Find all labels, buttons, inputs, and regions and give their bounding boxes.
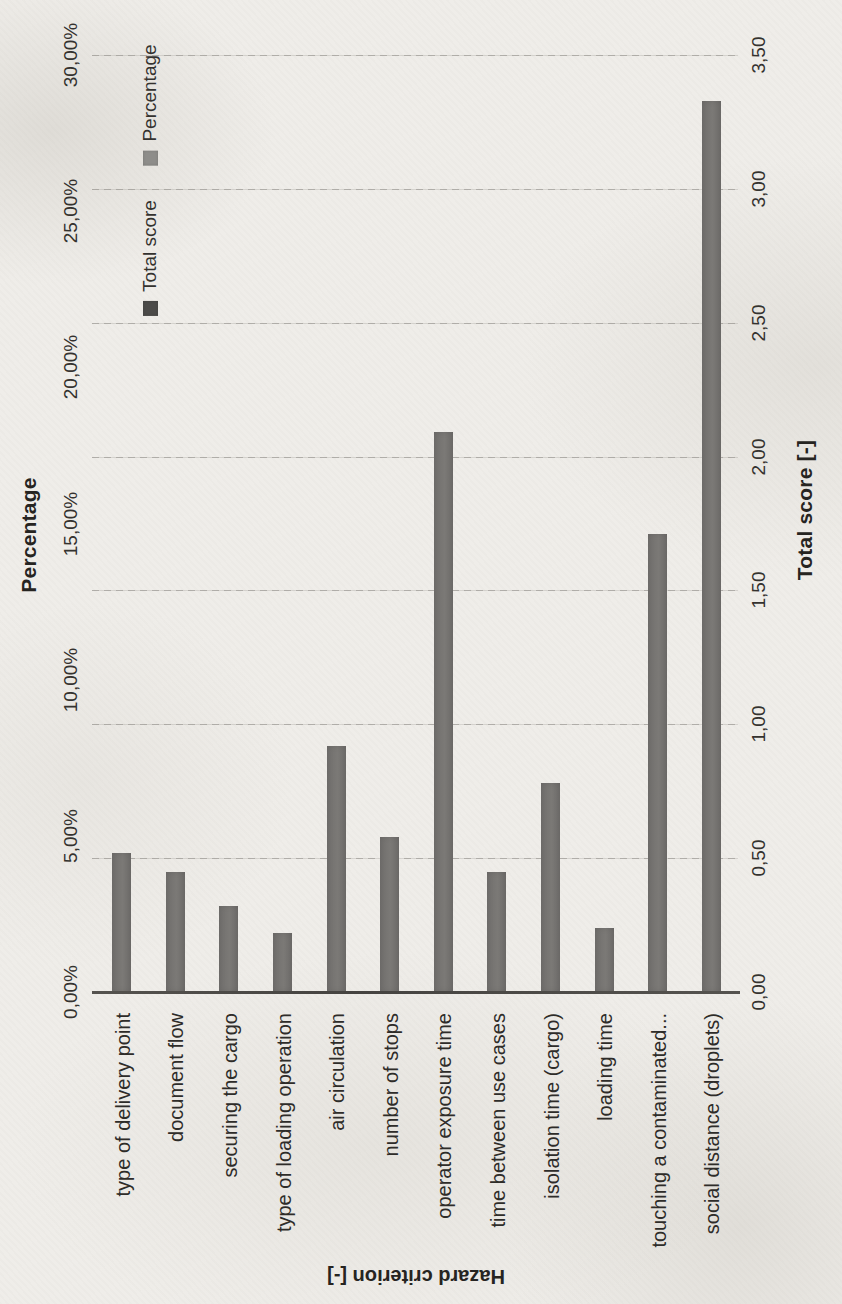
- category-label-11: social distance (droplets): [700, 1013, 724, 1273]
- legend-label: Percentage: [139, 44, 161, 141]
- legend-item-total-score: Total score: [139, 200, 161, 316]
- bar-7: [487, 872, 506, 992]
- category-label-4: air circulation: [325, 1013, 349, 1273]
- total-score-swatch-icon: [143, 301, 158, 316]
- category-label-7: time between use cases: [486, 1013, 510, 1273]
- legend-item-percentage: Percentage: [139, 44, 161, 165]
- score-tick-label: 2,50: [747, 268, 771, 378]
- bar-9: [595, 928, 614, 992]
- pct-tick-label: 20,00%: [59, 312, 83, 422]
- category-label-6: operator exposure time: [432, 1013, 456, 1273]
- bar-8: [541, 783, 560, 992]
- gridline: [92, 189, 738, 190]
- bar-6: [434, 432, 453, 992]
- secondary-axis-title: Total score [-]: [792, 400, 818, 620]
- gridline: [92, 457, 738, 458]
- pct-tick-label: 15,00%: [59, 469, 83, 579]
- pct-tick-label: 10,00%: [59, 625, 83, 735]
- bar-11: [702, 101, 721, 992]
- category-label-5: number of stops: [379, 1013, 403, 1273]
- score-tick-label: 1,50: [747, 535, 771, 645]
- bar-10: [648, 534, 667, 992]
- gridline: [92, 55, 738, 56]
- score-tick-label: 2,00: [747, 402, 771, 512]
- score-tick-label: 0,50: [747, 803, 771, 913]
- bar-2: [219, 906, 238, 992]
- gridline: [92, 323, 738, 324]
- pct-tick-label: 0,00%: [59, 937, 83, 1047]
- category-label-10: touching a contaminated...: [647, 1013, 671, 1273]
- gridline: [92, 858, 738, 859]
- category-label-3: type of loading operation: [272, 1013, 296, 1273]
- bar-0: [112, 853, 131, 992]
- gridline: [92, 724, 738, 725]
- legend-label: Total score: [139, 200, 161, 292]
- category-axis-title: Hazard criterion [-]: [327, 1265, 505, 1288]
- percentage-swatch-icon: [143, 151, 158, 166]
- category-label-1: document flow: [164, 1013, 188, 1273]
- score-tick-label: 0,00: [747, 937, 771, 1047]
- score-tick-label: 1,00: [747, 669, 771, 779]
- category-axis-line: [92, 991, 740, 994]
- bar-5: [380, 837, 399, 992]
- category-label-9: loading time: [593, 1013, 617, 1273]
- bar-chart: 0,00%5,00%10,00%15,00%20,00%25,00%30,00%…: [0, 0, 842, 1304]
- bar-1: [166, 872, 185, 992]
- category-label-8: isolation time (cargo): [540, 1013, 564, 1273]
- pct-tick-label: 30,00%: [59, 0, 83, 110]
- bar-4: [327, 746, 346, 992]
- pct-tick-label: 5,00%: [59, 781, 83, 891]
- scanned-page: 0,00%5,00%10,00%15,00%20,00%25,00%30,00%…: [0, 0, 842, 1304]
- score-tick-label: 3,50: [747, 0, 771, 110]
- category-label-2: securing the cargo: [218, 1013, 242, 1273]
- category-label-0: type of delivery point: [111, 1013, 135, 1273]
- bar-3: [273, 933, 292, 992]
- score-tick-label: 3,00: [747, 134, 771, 244]
- primary-axis-title: Percentage: [16, 425, 42, 645]
- pct-tick-label: 25,00%: [59, 156, 83, 266]
- gridline: [92, 590, 738, 591]
